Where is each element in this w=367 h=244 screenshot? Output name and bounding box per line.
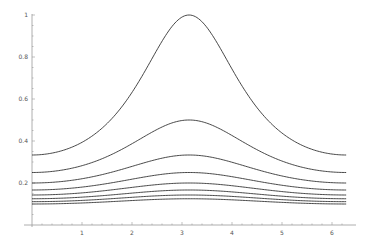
x-tick-label: 4 — [230, 229, 234, 236]
x-tick-label: 1 — [80, 229, 84, 236]
curve-n-2 — [32, 120, 346, 173]
y-tick-label: 0.2 — [18, 179, 28, 186]
curves — [32, 15, 346, 204]
x-tick-label: 2 — [130, 229, 134, 236]
x-tick-label: 6 — [330, 229, 334, 236]
x-tick-label: 5 — [280, 229, 284, 236]
y-tick-label: 0.8 — [18, 53, 28, 60]
curve-n-3 — [32, 155, 346, 183]
axes: 1234560.20.40.60.81 — [18, 11, 356, 236]
curve-n-4 — [32, 173, 346, 191]
x-tick-label: 3 — [180, 229, 184, 236]
curve-n-6 — [32, 190, 346, 199]
curve-n-1 — [32, 15, 346, 155]
y-tick-label: 0.6 — [18, 95, 28, 102]
y-tick-label: 1 — [24, 11, 28, 18]
curve-n-5 — [32, 183, 346, 195]
line-chart: 1234560.20.40.60.81 — [0, 0, 367, 244]
y-tick-label: 0.4 — [18, 137, 28, 144]
curve-n-8 — [32, 199, 346, 204]
